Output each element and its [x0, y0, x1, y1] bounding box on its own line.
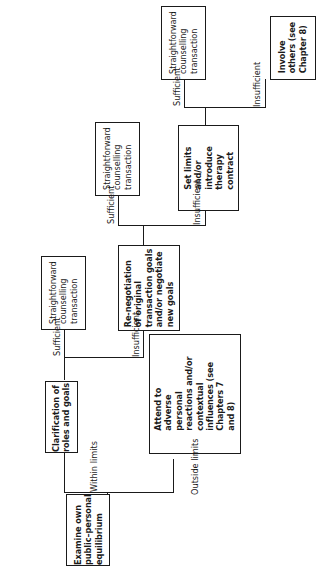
node-straightforward-transaction-3[interactable]: Straightforward counselling transaction: [161, 6, 206, 80]
node-examine-equilibrium-label: Examine own public–personal equilibrium: [72, 495, 103, 566]
connector-split-bar-3: [184, 107, 266, 108]
node-set-limits-label: Set limits and/or introduce therapy cont…: [182, 146, 234, 189]
edge-label-sufficient-1: Sufficient: [53, 317, 62, 356]
node-straightforward-transaction-2[interactable]: Straightforward counselling transaction: [95, 122, 140, 196]
node-renegotiation-goals[interactable]: Re-negotiation of original transaction g…: [118, 245, 180, 331]
node-set-limits-therapy-contract[interactable]: Set limits and/or introduce therapy cont…: [178, 125, 239, 211]
node-attend-label: Attend to adverse personal reactions and…: [153, 357, 236, 431]
node-attend-adverse-reactions[interactable]: Attend to adverse personal reactions and…: [149, 334, 241, 454]
node-straightforward-2-label: Straightforward counselling transaction: [102, 128, 133, 191]
connector-setlimits-up: [205, 107, 206, 125]
node-clarification-label: Clarification of roles and goals: [51, 382, 72, 451]
node-straightforward-3-label: Straightforward counselling transaction: [168, 12, 199, 75]
connector-sufficient3-to-box: [184, 79, 185, 108]
connector-sufficient1-to-box: [64, 330, 65, 358]
edge-label-within-limits: Within limits: [90, 441, 99, 492]
edge-label-insufficient-1: Insufficient: [132, 312, 141, 357]
edge-label-insufficient-3: Insufficient: [253, 62, 262, 107]
node-straightforward-transaction-1[interactable]: Straightforward counselling transaction: [41, 256, 86, 330]
connector-split-bar-1: [64, 357, 144, 358]
node-clarification-roles-goals[interactable]: Clarification of roles and goals: [45, 381, 78, 453]
connector-clarification-up: [64, 357, 65, 380]
connector-renegotiation-up: [143, 225, 144, 245]
node-involve-others[interactable]: Involve others (see Chapter 8): [270, 16, 316, 80]
edge-label-insufficient-2: Insufficient: [193, 180, 202, 225]
flowchart-canvas: Examine own public–personal equilibrium …: [0, 0, 328, 572]
node-straightforward-1-label: Straightforward counselling transaction: [48, 262, 79, 325]
connector-insufficient3-to-involve: [265, 79, 266, 108]
edge-label-sufficient-3: Sufficient: [173, 67, 182, 106]
connector-outside-to-attend: [173, 459, 174, 493]
node-examine-equilibrium[interactable]: Examine own public–personal equilibrium: [66, 494, 110, 566]
edge-label-sufficient-2: Sufficient: [107, 185, 116, 224]
connector-split-bar-2: [118, 225, 206, 226]
edge-label-outside-limits: Outside limits: [191, 439, 200, 496]
node-involve-others-label: Involve others (see Chapter 8): [277, 22, 308, 73]
connector-insufficient1-to-renegotiation: [143, 330, 144, 358]
connector-sufficient2-to-box: [118, 196, 119, 226]
